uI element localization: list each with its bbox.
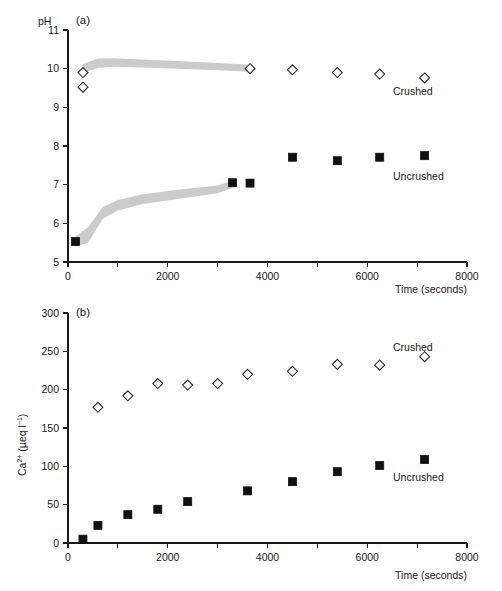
panel-b-y-axis-title-unit-exp: −1 xyxy=(16,417,23,425)
data-point-crushed xyxy=(287,65,297,75)
y-tick-label: 7 xyxy=(53,178,59,190)
panel-b-y-axis-title-main: Ca xyxy=(16,462,28,476)
y-tick-label: 8 xyxy=(53,140,59,152)
y-tick-label: 9 xyxy=(53,101,59,113)
panel-b-x-axis-title: Time (seconds) xyxy=(395,569,467,581)
data-point-crushed xyxy=(78,82,88,92)
y-tick-label: 200 xyxy=(41,383,59,395)
panel-b-letter: (b) xyxy=(76,306,90,318)
panel-b-uncrushed-markers xyxy=(79,455,429,543)
data-point-uncrushed xyxy=(333,468,341,476)
data-point-uncrushed xyxy=(154,505,162,513)
data-point-crushed xyxy=(243,369,253,379)
figure-root: 567891011 02000400060008000 pH (a) Time … xyxy=(0,0,502,591)
panel-b-y-ticks xyxy=(63,313,68,543)
data-point-uncrushed xyxy=(421,152,429,160)
data-point-uncrushed xyxy=(246,179,254,187)
data-point-crushed xyxy=(93,402,103,412)
data-point-crushed xyxy=(153,379,163,389)
uncrushed-envelope-band xyxy=(76,181,233,247)
panel-a-ph-chart: 567891011 02000400060008000 pH (a) Time … xyxy=(0,0,502,300)
panel-a-y-tick-labels: 567891011 xyxy=(47,24,59,268)
x-tick-label: 2000 xyxy=(156,270,180,282)
panel-a-y-ticks xyxy=(63,30,68,262)
panel-b-uncrushed-label: Uncrushed xyxy=(393,471,444,483)
panel-a-crushed-label: Crushed xyxy=(393,85,433,97)
y-tick-label: 150 xyxy=(41,422,59,434)
data-point-crushed xyxy=(213,379,223,389)
x-tick-label: 8000 xyxy=(455,551,479,563)
data-point-uncrushed xyxy=(376,153,384,161)
panel-a-shaded-bands xyxy=(76,58,251,246)
panel-a-letter: (a) xyxy=(76,14,90,26)
panel-a-svg: 567891011 02000400060008000 pH (a) Time … xyxy=(0,0,502,300)
x-tick-label: 6000 xyxy=(356,551,380,563)
panel-b-crushed-label: Crushed xyxy=(393,341,433,353)
y-tick-label: 10 xyxy=(47,62,59,74)
panel-a-x-tick-labels: 02000400060008000 xyxy=(65,270,479,282)
data-point-uncrushed xyxy=(244,487,252,495)
panel-a-x-ticks xyxy=(68,262,467,267)
data-point-crushed xyxy=(332,68,342,78)
panel-b-y-axis-title: Ca2+ (µeq l−1) xyxy=(16,414,28,476)
x-tick-label: 8000 xyxy=(455,270,479,282)
panel-b-x-tick-labels: 02000400060008000 xyxy=(65,551,479,563)
data-point-uncrushed xyxy=(333,157,341,165)
x-tick-label: 0 xyxy=(65,270,71,282)
x-tick-label: 2000 xyxy=(156,551,180,563)
y-tick-label: 5 xyxy=(53,256,59,268)
data-point-crushed xyxy=(123,391,133,401)
data-point-uncrushed xyxy=(124,511,132,519)
data-point-crushed xyxy=(332,359,342,369)
panel-b-svg: 050100150200250300 02000400060008000 Ca2… xyxy=(0,291,502,591)
data-point-crushed xyxy=(420,352,430,362)
data-point-uncrushed xyxy=(376,462,384,470)
data-point-crushed xyxy=(375,69,385,79)
data-point-uncrushed xyxy=(79,535,87,543)
data-point-crushed xyxy=(287,366,297,376)
panel-b-crushed-markers xyxy=(93,352,430,413)
panel-b-y-axis-title-charge: 2+ xyxy=(16,455,23,463)
x-tick-label: 4000 xyxy=(256,551,280,563)
y-tick-label: 250 xyxy=(41,345,59,357)
y-tick-label: 6 xyxy=(53,217,59,229)
crushed-envelope-band xyxy=(83,58,250,72)
x-tick-label: 6000 xyxy=(356,270,380,282)
panel-b-y-axis-title-unit-close: ) xyxy=(16,414,28,418)
panel-b-calcium-chart: 050100150200250300 02000400060008000 Ca2… xyxy=(0,291,502,591)
y-tick-label: 300 xyxy=(41,307,59,319)
y-tick-label: 50 xyxy=(47,498,59,510)
data-point-uncrushed xyxy=(288,153,296,161)
panel-b-y-axis-title-unit-open: (µeq l xyxy=(16,425,28,454)
x-tick-label: 0 xyxy=(65,551,71,563)
data-point-crushed xyxy=(375,360,385,370)
panel-a-uncrushed-label: Uncrushed xyxy=(393,170,444,182)
data-point-uncrushed xyxy=(229,179,237,187)
data-point-uncrushed xyxy=(288,478,296,486)
data-point-uncrushed xyxy=(184,498,192,506)
data-point-crushed xyxy=(420,73,430,83)
panel-b-x-ticks xyxy=(68,543,467,548)
panel-a-y-axis-title: pH xyxy=(38,15,51,27)
y-tick-label: 100 xyxy=(41,460,59,472)
data-point-crushed xyxy=(183,380,193,390)
data-point-uncrushed xyxy=(421,455,429,463)
y-tick-label: 0 xyxy=(53,537,59,549)
panel-a-crushed-markers xyxy=(78,64,430,93)
data-point-uncrushed xyxy=(71,238,79,246)
panel-b-y-tick-labels: 050100150200250300 xyxy=(41,307,59,549)
data-point-uncrushed xyxy=(94,521,102,529)
x-tick-label: 4000 xyxy=(256,270,280,282)
